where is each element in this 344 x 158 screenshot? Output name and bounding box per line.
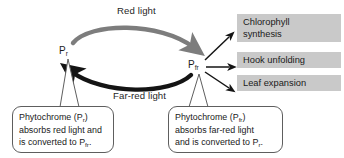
callout-pr-line3: is converted to Pfr.: [19, 136, 108, 149]
response-chlorophyll-line2: synthesis: [243, 29, 282, 39]
state-pr-subscript: r: [66, 50, 68, 57]
red-light-label: Red light: [117, 5, 156, 16]
callout-pfr-line2: absorbs far-red light: [175, 124, 277, 137]
callout-pfr-line1: Phytochrome (Pfr): [175, 111, 277, 124]
response-leaf-line1: Leaf expansion: [243, 78, 306, 88]
state-pfr-symbol: P: [188, 59, 195, 70]
callout-pr: Phytochrome (Pr) absorbs red light and i…: [12, 106, 114, 153]
response-hook-line1: Hook unfolding: [243, 55, 305, 65]
callout-pfr-line1-subscript: fr: [239, 116, 243, 123]
callout-pr-line1-subscript: r: [83, 116, 85, 123]
response-box-chlorophyll: Chlorophyll synthesis: [237, 14, 341, 42]
state-label-pfr: Pfr: [188, 59, 199, 71]
callout-pr-line3-subscript: fr: [85, 141, 89, 148]
callout-pr-line2: absorbs red light and: [19, 124, 108, 137]
response-chlorophyll-line1: Chlorophyll: [243, 17, 290, 27]
response-arrow-leaf: [205, 72, 229, 88]
response-arrow-chlorophyll: [205, 37, 229, 60]
far-red-light-label: Far-red light: [113, 90, 166, 101]
state-label-pr: Pr: [59, 45, 68, 57]
state-pfr-subscript: fr: [195, 64, 199, 71]
red-light-arrow: [73, 28, 193, 47]
response-box-hook: Hook unfolding: [237, 52, 341, 68]
callout-pr-line1: Phytochrome (Pr): [19, 111, 108, 124]
callout-right-tail: [189, 74, 208, 107]
callout-pfr-line3: and is converted to Pr.: [175, 136, 277, 149]
callout-pfr: Phytochrome (Pfr) absorbs far-red light …: [168, 106, 283, 153]
response-box-leaf: Leaf expansion: [237, 75, 341, 91]
state-pr-symbol: P: [59, 45, 66, 56]
far-red-light-arrow: [72, 72, 191, 90]
phytochrome-diagram: Red light Far-red light Pr Pfr Chlorophy…: [0, 0, 344, 158]
callout-left-tail: [60, 59, 79, 107]
